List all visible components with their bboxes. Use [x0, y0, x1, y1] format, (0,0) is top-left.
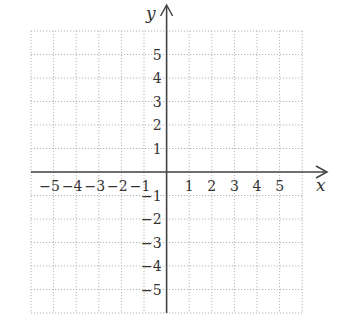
x-tick-label: 2 — [207, 178, 216, 194]
y-tick-label: −2 — [141, 211, 162, 227]
axes — [31, 5, 327, 313]
coordinate-plane: −5−4−3−2−112345 −5−4−3−2−112345 x y — [0, 0, 349, 335]
x-tick-label: −5 — [39, 178, 60, 194]
x-tick-label: 1 — [185, 178, 194, 194]
x-tick-label: −2 — [107, 178, 128, 194]
y-tick-label: −3 — [141, 235, 162, 251]
y-tick-label: −4 — [141, 258, 162, 274]
x-tick-label: 4 — [253, 178, 262, 194]
y-tick-label: 3 — [153, 94, 162, 110]
y-tick-label: −1 — [141, 188, 162, 204]
x-tick-label: 5 — [275, 178, 284, 194]
y-tick-label: −5 — [141, 282, 162, 298]
y-tick-label: 1 — [153, 141, 162, 157]
x-tick-labels: −5−4−3−2−112345 — [39, 178, 284, 194]
y-axis-label: y — [145, 3, 156, 23]
x-axis-label: x — [316, 175, 326, 195]
y-tick-label: 2 — [153, 117, 162, 133]
x-tick-label: −4 — [62, 178, 83, 194]
x-tick-label: 3 — [230, 178, 239, 194]
y-tick-label: 4 — [153, 70, 162, 86]
y-tick-label: 5 — [153, 47, 162, 63]
x-tick-label: −3 — [84, 178, 105, 194]
